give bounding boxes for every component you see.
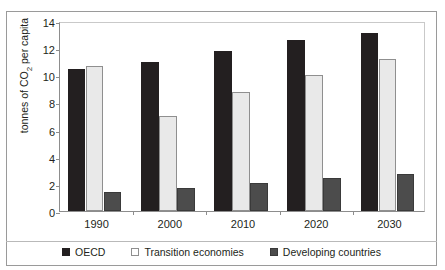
bar-group <box>206 23 279 211</box>
bar-oecd-2030 <box>361 33 379 211</box>
x-axis-tick-label: 2030 <box>377 218 401 230</box>
bar-group <box>60 23 133 211</box>
legend-swatch-icon <box>62 248 70 256</box>
bar-developing-countries-2000 <box>177 188 195 211</box>
x-axis-tick-mark <box>280 211 281 215</box>
x-axis-tick-mark <box>206 211 207 215</box>
legend-swatch-icon <box>270 248 278 256</box>
legend-item-oecd[interactable]: OECD <box>62 246 105 258</box>
x-axis-tick-mark <box>353 211 354 215</box>
legend-item-label: Transition economies <box>144 246 243 258</box>
y-axis-tick-label: 4 <box>49 153 55 164</box>
y-axis-tick-label: 6 <box>49 126 55 137</box>
y-axis-tick-label: 14 <box>43 18 55 29</box>
bar-developing-countries-2010 <box>250 183 268 212</box>
bar-developing-countries-1990 <box>104 192 122 211</box>
x-axis-tick-label: 2020 <box>304 218 328 230</box>
bar-developing-countries-2030 <box>397 174 415 211</box>
y-axis-tick-label: 10 <box>43 72 55 83</box>
bar-transition-economies-2020 <box>305 75 323 211</box>
y-axis-tick-label: 12 <box>43 45 55 56</box>
bar-group <box>353 23 426 211</box>
x-axis-tick-label: 2010 <box>231 218 255 230</box>
bar-transition-economies-2000 <box>159 116 177 211</box>
bar-oecd-2020 <box>287 40 305 211</box>
x-axis-tick-mark <box>133 211 134 215</box>
y-axis-tick-mark <box>56 213 60 214</box>
bar-transition-economies-1990 <box>86 66 104 211</box>
chart-figure: tonnes of CO2 per capita 024681012141990… <box>0 0 445 270</box>
bar-oecd-2000 <box>141 62 159 211</box>
y-axis-title-subscript: 2 <box>25 67 34 71</box>
chart-title-clipped <box>0 0 445 3</box>
chart-legend: OECDTransition economiesDeveloping count… <box>6 241 437 261</box>
legend-swatch-icon <box>131 248 139 256</box>
legend-item-developing-countries[interactable]: Developing countries <box>270 246 381 258</box>
legend-item-transition-economies[interactable]: Transition economies <box>131 246 243 258</box>
legend-item-label: OECD <box>75 246 105 258</box>
y-axis-tick-label: 0 <box>49 208 55 219</box>
y-axis-title: tonnes of CO2 per capita <box>18 0 33 176</box>
plot-area: 0246810121419902000201020202030 <box>59 22 425 212</box>
bar-group <box>133 23 206 211</box>
bar-developing-countries-2020 <box>323 178 341 211</box>
bar-oecd-2010 <box>214 51 232 211</box>
y-axis-tick-label: 2 <box>49 180 55 191</box>
x-axis-tick-label: 1990 <box>84 218 108 230</box>
bar-group <box>280 23 353 211</box>
bar-transition-economies-2030 <box>379 59 397 211</box>
bar-oecd-1990 <box>68 69 86 212</box>
legend-item-label: Developing countries <box>283 246 381 258</box>
y-axis-tick-label: 8 <box>49 99 55 110</box>
x-axis-tick-label: 2000 <box>158 218 182 230</box>
y-axis-title-text: tonnes of CO <box>18 71 30 133</box>
y-axis-title-suffix: per capita <box>18 18 30 67</box>
bar-transition-economies-2010 <box>232 92 250 211</box>
